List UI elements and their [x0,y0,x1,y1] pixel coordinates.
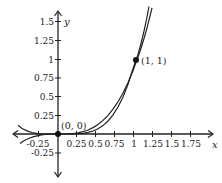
y-tick-label: 0.75 [34,73,54,83]
y-axis [55,11,62,177]
x-tick-label: 1.75 [181,139,201,149]
graph: (0, 0) (1, 1) x y -0.25 0.25 0.5 0.75 1 … [0,0,222,183]
intersection-label: (1, 1) [141,55,167,66]
x-tick-label: 0.25 [66,139,86,149]
y-axis-label: y [63,16,70,27]
y-tick-label: 0.25 [34,111,54,121]
y-tick-label: -0.25 [31,148,54,158]
y-tick-label: 0.5 [40,92,55,102]
origin-point [55,131,61,137]
y-tick-label: 1.25 [34,36,54,46]
origin-label: (0, 0) [61,120,87,131]
x-axis-label: x [212,139,218,150]
x-tick-label: 1.25 [143,139,163,149]
y-tick-label: 1.5 [40,17,55,27]
x-tick-label: 1.5 [165,139,180,149]
x-tick-label: 0.5 [88,139,103,149]
y-tick-label: 1 [48,55,54,65]
x-tick-label: 0.75 [104,139,124,149]
x-tick-label: 1 [131,139,137,149]
intersection-point [133,57,139,63]
